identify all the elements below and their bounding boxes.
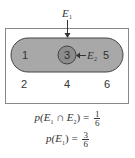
outcome-4: 4 xyxy=(64,78,70,90)
e2-label: E xyxy=(86,49,94,61)
fraction-one-sixth: 16 xyxy=(94,110,101,127)
outcome-6: 6 xyxy=(104,78,110,90)
outcome-3: 3 xyxy=(64,49,70,61)
e1-label: E xyxy=(61,7,69,19)
e2-label-sub: 2 xyxy=(94,56,97,62)
outcome-2: 2 xyxy=(21,78,27,90)
denominator: 6 xyxy=(94,119,101,127)
formula-intersection-close: ) = xyxy=(77,111,92,123)
outcome-1: 1 xyxy=(22,49,28,61)
formula-intersection-mid: ∩ E xyxy=(53,111,73,123)
formula-e1: p(E1) = 36 xyxy=(0,131,135,148)
fraction-three-sixths: 36 xyxy=(82,131,89,148)
denominator: 6 xyxy=(82,140,89,148)
outcome-5: 5 xyxy=(103,49,109,61)
formula-intersection: p(E1 ∩ E2) = 16 xyxy=(0,110,135,127)
formula-intersection-lhs: p(E xyxy=(35,111,51,123)
e1-label-sub: 1 xyxy=(69,14,72,20)
formula-e1-close: ) = xyxy=(65,132,80,144)
formula-e1-lhs: p(E xyxy=(46,132,62,144)
